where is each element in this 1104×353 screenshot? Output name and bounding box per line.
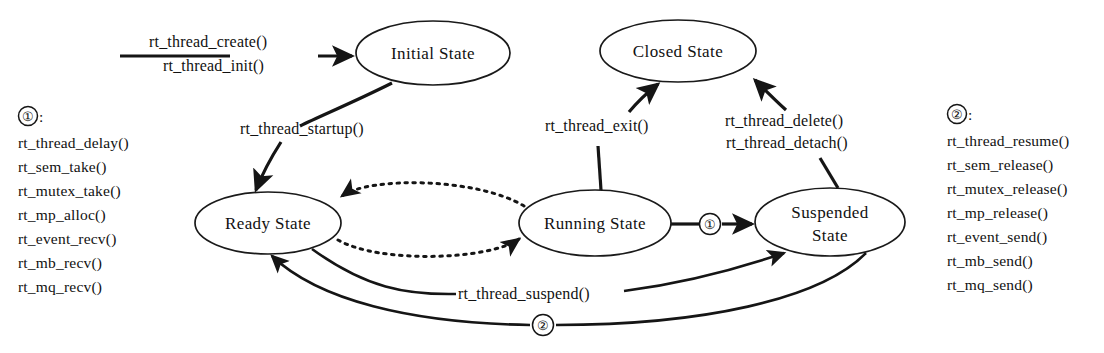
edge-schedule-out	[342, 183, 524, 206]
edge-block: ①	[671, 214, 752, 235]
state-label-closed: Closed State	[633, 42, 723, 61]
state-node-running[interactable]: Running State	[519, 190, 671, 256]
legend-one-item-4: rt_event_recv()	[18, 230, 117, 248]
edge-resume-marker-label: ②	[537, 318, 549, 333]
edge-delete-seg-lower	[820, 158, 838, 188]
edge-schedule-in	[338, 239, 519, 256]
edge-suspend: rt_thread_suspend()	[312, 249, 784, 303]
edge-block-marker-label: ①	[704, 217, 716, 232]
state-ellipse-suspended[interactable]	[755, 188, 905, 256]
state-label-running: Running State	[544, 214, 646, 233]
legend-two-item-1: rt_sem_release()	[947, 156, 1053, 174]
edge-startup-label: rt_thread_startup()	[240, 120, 364, 138]
state-diagram: rt_thread_create() rt_thread_init() rt_t…	[0, 0, 1104, 353]
legend-two-item-3: rt_mp_release()	[947, 204, 1048, 222]
edge-resume-seg-right	[556, 253, 866, 325]
edge-exit: rt_thread_exit()	[545, 84, 658, 190]
legend-two-item-6: rt_mq_send()	[947, 276, 1033, 294]
legend-one-marker: ①	[22, 109, 34, 124]
legend-one-item-5: rt_mb_recv()	[18, 254, 102, 272]
state-label-ready: Ready State	[225, 214, 311, 233]
legend-two-item-5: rt_mb_send()	[947, 252, 1033, 270]
legend-two-marker: ②	[951, 107, 963, 122]
legend-one-item-3: rt_mp_alloc()	[18, 206, 106, 224]
diagram-canvas: rt_thread_create() rt_thread_init() rt_t…	[0, 0, 1104, 353]
edge-delete: rt_thread_delete() rt_thread_detach()	[725, 80, 848, 188]
edge-create-label-2: rt_thread_init()	[163, 57, 264, 75]
legend-two-item-0: rt_thread_resume()	[947, 132, 1069, 150]
legend-one-item-1: rt_sem_take()	[18, 158, 107, 176]
edge-suspend-seg-right	[624, 253, 784, 291]
state-node-closed[interactable]: Closed State	[600, 20, 756, 82]
edge-exit-seg-upper	[629, 84, 658, 112]
edge-create: rt_thread_create() rt_thread_init()	[120, 33, 352, 75]
edge-create-label-1: rt_thread_create()	[149, 33, 267, 51]
edge-schedule-out-arc	[342, 183, 524, 206]
legend-two: ② : rt_thread_resume() rt_sem_release() …	[947, 105, 1069, 295]
edge-exit-seg-lower	[598, 146, 601, 190]
state-label-initial: Initial State	[391, 44, 475, 63]
legend-one: ① : rt_thread_delay() rt_sem_take() rt_m…	[18, 107, 129, 297]
state-node-suspended[interactable]: Suspended State	[755, 188, 905, 256]
legend-one-separator: :	[39, 108, 44, 125]
edge-delete-seg-upper	[755, 80, 786, 110]
edge-startup: rt_thread_startup()	[240, 83, 392, 190]
legend-one-item-2: rt_mutex_take()	[18, 182, 121, 200]
state-label-suspended-line1: Suspended	[791, 203, 868, 222]
state-label-suspended-line2: State	[812, 226, 848, 245]
edge-delete-label-2: rt_thread_detach()	[726, 134, 848, 152]
edge-exit-label: rt_thread_exit()	[545, 117, 649, 135]
legend-two-item-4: rt_event_send()	[947, 228, 1047, 246]
legend-two-item-2: rt_mutex_release()	[947, 180, 1068, 198]
edge-delete-label-1: rt_thread_delete()	[725, 112, 843, 130]
edge-startup-seg-lower	[256, 142, 281, 190]
legend-one-item-0: rt_thread_delay()	[18, 134, 129, 152]
state-node-ready[interactable]: Ready State	[195, 192, 341, 254]
legend-two-separator: :	[968, 106, 973, 123]
legend-one-item-6: rt_mq_recv()	[18, 278, 102, 296]
edge-schedule-in-arc	[338, 239, 519, 256]
state-node-initial[interactable]: Initial State	[356, 21, 510, 85]
edge-suspend-label: rt_thread_suspend()	[458, 285, 590, 303]
